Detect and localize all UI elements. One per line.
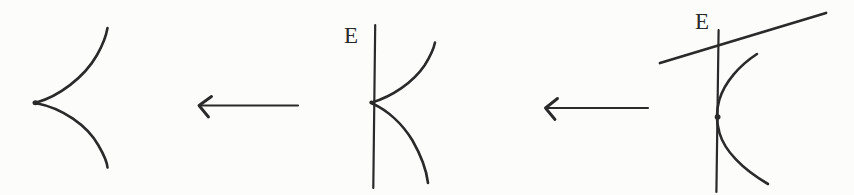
cusp-lower-branch (37, 103, 108, 167)
middle-cusp-lower-branch (372, 103, 428, 183)
figure-middle-cusp-on-line: E (344, 23, 435, 188)
middle-cusp-upper-branch (372, 43, 435, 103)
cusp-upper-branch (37, 28, 108, 103)
scanned-diagram-page: E E (0, 0, 854, 195)
figure-right-tangent-curve: E (660, 9, 826, 192)
vertical-line-E-middle (373, 25, 375, 188)
diagram-canvas: E E (0, 0, 854, 195)
line-label-E-middle: E (344, 23, 358, 48)
arrow-first-head (199, 97, 212, 118)
tangency-point-dot (715, 114, 721, 119)
arrow-second-left (546, 99, 649, 120)
figure-left-cusp (33, 28, 108, 168)
diagram-ink: E E (33, 9, 827, 192)
arrow-first-left (199, 97, 298, 118)
transversal-line (660, 13, 826, 63)
line-label-E-right: E (695, 9, 709, 34)
tangent-curve (717, 54, 768, 184)
